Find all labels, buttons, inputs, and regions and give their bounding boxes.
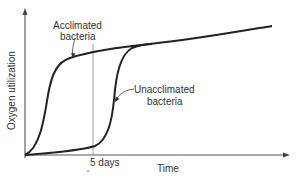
unacclimated-label-line1: Unacclimated (134, 84, 195, 95)
y-axis-arrow-icon (23, 8, 28, 15)
unacclimated-curve (25, 44, 152, 155)
x-axis-arrow-icon (283, 153, 290, 158)
five-days-label: 5 days (90, 157, 119, 168)
unacclimated-label-line2: bacteria (147, 96, 183, 107)
acclimated-label-line1: Acclimated (53, 20, 102, 31)
x-axis-label: Time (157, 163, 179, 174)
acclimated-label-line2: bacteria (60, 31, 96, 42)
unacclimated-pointer (116, 89, 134, 100)
y-axis-label: Oxygen utilization (6, 51, 17, 130)
